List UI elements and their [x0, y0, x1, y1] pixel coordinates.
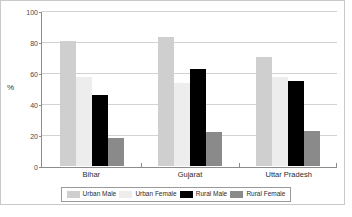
legend-swatch: [119, 191, 132, 198]
legend-label: Urban Female: [135, 191, 176, 198]
y-axis-tick-label: 20: [30, 133, 38, 140]
x-axis-category-label: Bihar: [42, 171, 141, 179]
plot-area: 020406080100: [41, 12, 337, 168]
y-axis-tick-mark: [39, 74, 42, 75]
bar: [60, 41, 76, 166]
legend-label: Rural Male: [196, 191, 227, 198]
y-axis-tick-label: 40: [30, 102, 38, 109]
chart-legend: Urban MaleUrban FemaleRural MaleRural Fe…: [61, 187, 291, 202]
legend-item[interactable]: Rural Female: [230, 191, 285, 198]
y-axis-tick-mark: [39, 136, 42, 137]
legend-swatch: [180, 191, 193, 198]
y-axis-tick-mark: [39, 43, 42, 44]
bar: [272, 77, 288, 166]
bar-groups: [43, 12, 337, 166]
y-axis-tick-label: 60: [30, 71, 38, 78]
x-axis-tick-mark: [336, 163, 337, 167]
y-axis-tick-mark: [39, 167, 42, 168]
figure-caption: [3, 209, 343, 215]
bar: [288, 81, 304, 166]
legend-item[interactable]: Urban Female: [119, 191, 176, 198]
x-axis-category-labels: BiharGujaratUttar Pradesh: [42, 171, 338, 179]
plot-area-wrapper: 020406080100: [41, 12, 337, 168]
y-axis-tick-label: 0: [34, 164, 38, 171]
chart-figure-frame: % 020406080100 BiharGujaratUttar Pradesh…: [0, 0, 345, 205]
bar: [92, 95, 108, 166]
bar: [256, 57, 272, 166]
legend-swatch: [230, 191, 243, 198]
bar: [158, 37, 174, 166]
x-axis-category-label: Uttar Pradesh: [239, 171, 338, 179]
legend-label: Urban Male: [83, 191, 117, 198]
legend-swatch: [67, 191, 80, 198]
legend-item[interactable]: Rural Male: [180, 191, 227, 198]
x-axis-tick-mark: [239, 163, 240, 167]
y-axis-tick-mark: [39, 105, 42, 106]
bar: [108, 138, 124, 166]
bar: [190, 69, 206, 166]
bar: [206, 132, 222, 166]
bar: [76, 77, 92, 166]
bar-group: [239, 12, 337, 166]
y-axis-title: %: [7, 84, 14, 92]
y-axis-tick-mark: [39, 12, 42, 13]
y-axis-tick-label: 100: [26, 9, 38, 16]
bar-group: [43, 12, 141, 166]
chart-screenshot: % 020406080100 BiharGujaratUttar Pradesh…: [0, 0, 352, 217]
bar: [174, 83, 190, 166]
right-gutter: [345, 0, 352, 217]
bar-group: [141, 12, 239, 166]
x-axis-tick-mark: [141, 163, 142, 167]
legend-item[interactable]: Urban Male: [67, 191, 117, 198]
legend-label: Rural Female: [246, 191, 285, 198]
bar: [304, 131, 320, 166]
y-axis-tick-label: 80: [30, 40, 38, 47]
x-axis-category-label: Gujarat: [141, 171, 240, 179]
